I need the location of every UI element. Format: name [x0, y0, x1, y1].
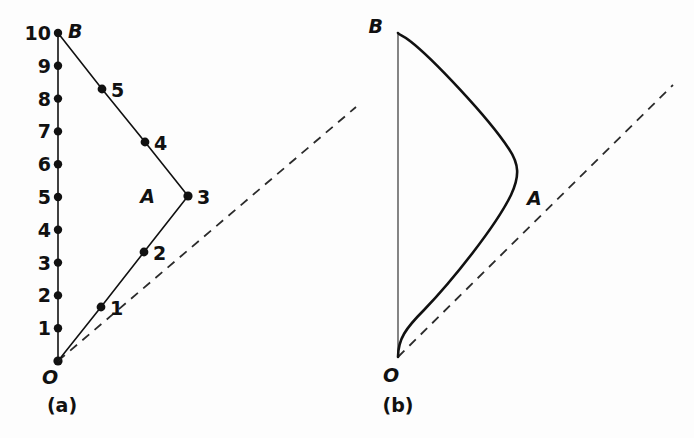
path-point-dot — [141, 138, 150, 147]
panel-a-tick-labels: 10 9 8 7 6 5 4 3 2 1 — [25, 22, 51, 339]
tick-label-6: 6 — [38, 153, 51, 175]
panel-b-caption: (b) — [383, 394, 414, 416]
path-point-label-5: 5 — [111, 79, 124, 101]
panel-b-vertex-label-B: B — [369, 15, 383, 37]
panel-b-smooth-curve — [398, 33, 517, 357]
path-point-label-3: 3 — [197, 186, 210, 208]
tick-dot — [54, 324, 62, 332]
tick-label-1: 1 — [38, 317, 51, 339]
figure-root: 10 9 8 7 6 5 4 3 2 1 — [0, 0, 694, 438]
tick-label-9: 9 — [38, 55, 51, 77]
tick-dot — [54, 193, 62, 201]
panel-a-caption: (a) — [47, 394, 77, 416]
path-point-dot — [97, 303, 106, 312]
path-point-label-4: 4 — [154, 132, 167, 154]
tick-label-7: 7 — [38, 120, 51, 142]
panel-a-vertex-label-O: O — [42, 366, 58, 388]
figure-canvas: 10 9 8 7 6 5 4 3 2 1 — [0, 0, 694, 438]
tick-label-10: 10 — [25, 22, 51, 44]
tick-label-4: 4 — [38, 219, 51, 241]
path-point-dot — [183, 191, 192, 200]
path-point-dot — [98, 85, 107, 94]
panel-b-dashed-reference-line — [398, 85, 673, 357]
panel-a-path-point-labels: 1 2 3 4 5 — [110, 79, 210, 319]
tick-dot — [54, 62, 62, 70]
tick-label-3: 3 — [38, 252, 51, 274]
panel-b-vertex-label-O: O — [383, 364, 399, 386]
tick-dot — [54, 94, 62, 102]
tick-dot — [54, 291, 62, 299]
path-point-label-2: 2 — [153, 242, 166, 264]
path-point-dot — [140, 248, 149, 257]
panel-a-dashed-reference-line — [58, 107, 356, 361]
tick-label-5: 5 — [38, 186, 51, 208]
tick-dot — [54, 258, 62, 266]
tick-label-2: 2 — [38, 284, 51, 306]
panel-b-vertex-label-A: A — [525, 187, 542, 209]
panel-b: O B A (b) — [369, 15, 673, 416]
path-point-label-1: 1 — [110, 297, 123, 319]
panel-a: 10 9 8 7 6 5 4 3 2 1 — [25, 20, 356, 416]
panel-a-vertex-label-A: A — [138, 185, 155, 207]
tick-label-8: 8 — [38, 88, 51, 110]
tick-dot — [54, 127, 62, 135]
panel-a-vertex-label-B: B — [68, 20, 82, 42]
tick-dot — [54, 226, 62, 234]
tick-dot — [54, 160, 62, 168]
